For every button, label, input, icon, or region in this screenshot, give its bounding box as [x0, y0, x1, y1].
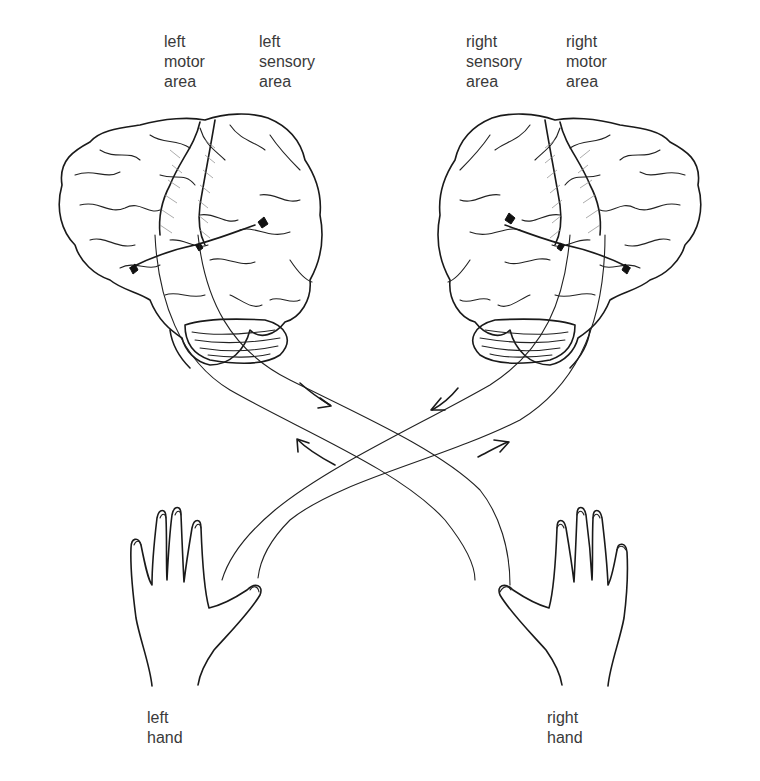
arrow-up-right-icon: [478, 440, 509, 457]
pathway-left-motor-to-right-hand: [155, 235, 475, 580]
right-hand: [499, 508, 627, 687]
left-brain-gyri: [75, 125, 312, 306]
left-hand-outline: [131, 508, 261, 687]
left-central-sulcus: [159, 122, 200, 235]
left-lateral-fissure: [130, 225, 255, 268]
direction-arrows: [297, 383, 509, 465]
pathway-right-sensory-to-left-hand: [222, 235, 570, 580]
right-fissure-blot: [505, 213, 515, 224]
arrow-down-right-icon: [300, 383, 331, 408]
right-central-sulcus: [560, 122, 601, 235]
arrow-down-left-icon: [431, 388, 458, 410]
right-brain-gyri: [448, 125, 685, 306]
pathway-left-sensory-to-right-hand: [198, 235, 510, 585]
right-hand-outline: [499, 508, 627, 687]
diagram-canvas: [0, 0, 760, 781]
right-lateral-fissure: [505, 225, 630, 268]
right-sulcus-2: [545, 120, 561, 245]
crossing-pathways: [155, 235, 605, 585]
left-sulcus-2: [199, 120, 215, 245]
left-fissure-blot: [258, 217, 268, 228]
arrow-up-left-icon: [297, 439, 335, 465]
left-cerebellum: [185, 319, 287, 363]
left-hand: [131, 508, 261, 687]
left-brain: [59, 114, 322, 368]
